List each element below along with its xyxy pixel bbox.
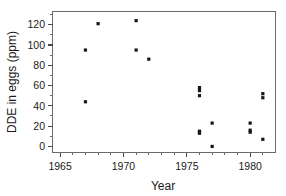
y-tick-label: 40 [33, 100, 45, 112]
data-point [97, 22, 100, 25]
y-tick-label: 60 [33, 79, 45, 91]
data-point [135, 19, 138, 22]
y-tick-label: 120 [27, 18, 45, 30]
data-point [198, 94, 201, 97]
data-point [211, 121, 214, 124]
y-axis-tick-labels: 020406080100120 [27, 18, 45, 152]
chart-canvas: 1965197019751980 020406080100120 Year DD… [0, 0, 286, 196]
data-point [261, 138, 264, 141]
data-point [249, 131, 252, 134]
plot-frame [53, 12, 276, 153]
y-axis-title: DDE in eggs (ppm) [5, 31, 19, 133]
data-point-series [84, 19, 265, 148]
x-axis-tick-labels: 1965197019751980 [48, 160, 262, 172]
y-tick-label: 20 [33, 120, 45, 132]
data-point [198, 86, 201, 89]
data-point [198, 132, 201, 135]
data-point [261, 96, 264, 99]
x-tick-label: 1980 [238, 160, 262, 172]
data-point [198, 89, 201, 92]
data-point [249, 121, 252, 124]
data-point [135, 48, 138, 51]
y-tick-label: 80 [33, 59, 45, 71]
y-tick-label: 100 [27, 39, 45, 51]
x-tick-label: 1965 [48, 160, 72, 172]
data-point [261, 92, 264, 95]
y-tick-label: 0 [39, 140, 45, 152]
data-point [211, 145, 214, 148]
data-point [84, 48, 87, 51]
x-tick-label: 1975 [175, 160, 199, 172]
data-point [84, 100, 87, 103]
x-tick-label: 1970 [112, 160, 136, 172]
x-axis-title: Year [151, 179, 175, 193]
data-point [147, 58, 150, 61]
scatter-plot-figure: 1965197019751980 020406080100120 Year DD… [0, 0, 286, 196]
